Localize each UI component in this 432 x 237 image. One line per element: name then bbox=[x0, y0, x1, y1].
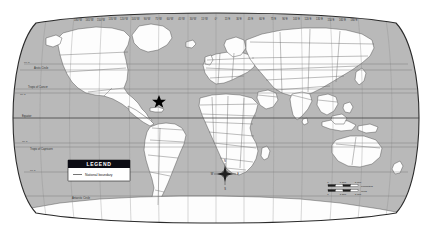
longitude-tick-label: 90°E bbox=[282, 17, 288, 21]
longitude-tick-label: 0° bbox=[215, 17, 217, 21]
label-arctic-circle: Arctic Circle bbox=[34, 66, 49, 70]
longitude-tick-label: 180°W bbox=[74, 18, 82, 22]
longitude-tick-label: 15°W bbox=[201, 17, 208, 21]
longitude-tick-label: 105°W bbox=[132, 17, 140, 21]
world-map-svg: Arctic Circle 60°N Tropic of Cancer 30°N… bbox=[0, 0, 432, 237]
longitude-tick-label: 105°E bbox=[293, 17, 300, 21]
longitude-tick-label: 30°E bbox=[236, 17, 242, 21]
longitude-tick-label: 15°E bbox=[225, 17, 231, 21]
label-tropic-cancer: Tropic of Cancer bbox=[28, 85, 48, 89]
scale-unit-mi: Miles bbox=[361, 190, 368, 193]
compass-label-south: S bbox=[224, 187, 226, 191]
compass-label-east: E bbox=[237, 172, 239, 176]
longitude-tick-label: 120°E bbox=[304, 17, 311, 21]
world-map-figure: Arctic Circle 60°N Tropic of Cancer 30°N… bbox=[0, 0, 432, 237]
longitude-tick-label: 75°W bbox=[155, 17, 162, 21]
longitude-tick-label: 165°E bbox=[339, 18, 346, 22]
longitude-tick-label: 120°W bbox=[120, 17, 128, 21]
scale-tick-mi-1: 1,500 bbox=[340, 193, 347, 196]
longitude-tick-label: 75°E bbox=[271, 17, 277, 21]
label-30n: 30°N bbox=[20, 93, 26, 96]
longitude-tick-label: 150°W bbox=[97, 18, 105, 22]
longitude-tick-label: 45°W bbox=[178, 17, 185, 21]
longitude-tick-label: 30°W bbox=[190, 17, 197, 21]
label-30s: 30°S bbox=[22, 140, 28, 143]
longitude-tick-label: 135°E bbox=[316, 17, 323, 21]
longitude-tick-label: 60°E bbox=[259, 17, 265, 21]
scale-tick-mi-2: 3,000 bbox=[355, 193, 362, 196]
label-antarctic-circle: Antarctic Circle bbox=[72, 196, 91, 200]
label-equator: Equator bbox=[22, 114, 32, 118]
scale-unit-km: Kilometers bbox=[361, 185, 374, 188]
legend-item-label: National boundary bbox=[85, 173, 113, 177]
longitude-tick-label: 45°E bbox=[248, 17, 254, 21]
longitude-tick-label: 90°W bbox=[144, 17, 151, 21]
longitude-tick-label: 165°W bbox=[86, 18, 94, 22]
scale-tick-km-1: 1,500 bbox=[340, 181, 347, 184]
longitude-tick-label: 150°E bbox=[327, 18, 334, 22]
compass-label-north: N bbox=[224, 159, 226, 163]
label-60s: 60°S bbox=[30, 169, 36, 172]
longitude-tick-label: 180°E bbox=[350, 18, 357, 22]
longitude-tick-label: 135°W bbox=[109, 17, 117, 21]
longitude-tick-label: 60°W bbox=[167, 17, 174, 21]
legend: LEGEND National boundary bbox=[68, 160, 130, 181]
legend-title: LEGEND bbox=[86, 161, 111, 167]
label-tropic-capricorn: Tropic of Capricorn bbox=[30, 147, 53, 151]
label-60n: 60°N bbox=[24, 61, 30, 64]
